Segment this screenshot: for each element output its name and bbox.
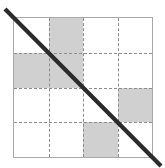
grid-cell-r1c4: [118, 18, 153, 53]
grid-cell-r2c2: [49, 53, 84, 88]
grid-cell-r3c3: [83, 88, 118, 123]
grid-cell-r2c4: [118, 53, 153, 88]
grid-cell-r2c3: [83, 53, 118, 88]
grid-cell-r1c2: [49, 18, 84, 53]
grid-cell-r4c1: [14, 122, 49, 157]
grid-cell-r3c2: [49, 88, 84, 123]
figure-canvas: [0, 0, 165, 168]
grid-cell-r3c4: [118, 88, 153, 123]
grid-cell-r4c2: [49, 122, 84, 157]
grid-cell-r4c4: [118, 122, 153, 157]
grid-cell-r4c3: [83, 122, 118, 157]
grid-cell-layer: [14, 18, 152, 157]
grid-cell-r3c1: [14, 88, 49, 123]
grid-cell-r2c1: [14, 53, 49, 88]
grid-square: [13, 17, 153, 158]
grid-cell-r1c1: [14, 18, 49, 53]
grid-cell-r1c3: [83, 18, 118, 53]
